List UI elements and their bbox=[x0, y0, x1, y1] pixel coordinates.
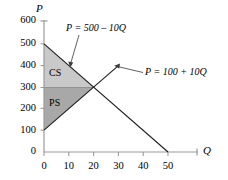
producer-surplus-label: PS bbox=[49, 98, 61, 108]
y-tick-label-500: 500 bbox=[8, 38, 36, 49]
x-tick-label-40: 40 bbox=[133, 161, 153, 172]
x-axis-title: Q bbox=[203, 145, 211, 156]
y-tick-label-600: 600 bbox=[8, 15, 36, 26]
y-tick-label-400: 400 bbox=[8, 60, 36, 71]
x-tick-label-20: 20 bbox=[84, 161, 104, 172]
y-tick-label-0: 0 bbox=[8, 146, 36, 157]
y-tick-label-100: 100 bbox=[8, 125, 36, 136]
supply-annotation-arrow bbox=[114, 64, 143, 73]
demand-equation-label: P = 500 – 10Q bbox=[66, 23, 126, 33]
x-axis-ticks bbox=[69, 152, 168, 156]
y-axis-title: P bbox=[36, 3, 43, 14]
x-tick-label-50: 50 bbox=[158, 161, 178, 172]
x-tick-label-10: 10 bbox=[59, 161, 79, 172]
surplus-chart: P Q 600 500 400 300 200 100 0 0 10 20 30… bbox=[0, 0, 228, 180]
demand-annotation-arrow bbox=[68, 35, 79, 68]
supply-equation-label: P = 100 + 10Q bbox=[145, 67, 207, 77]
consumer-surplus-label: CS bbox=[49, 68, 62, 78]
x-tick-label-0: 0 bbox=[34, 161, 54, 172]
y-tick-label-200: 200 bbox=[8, 103, 36, 114]
x-tick-label-30: 30 bbox=[108, 161, 128, 172]
y-tick-label-300: 300 bbox=[8, 82, 36, 93]
